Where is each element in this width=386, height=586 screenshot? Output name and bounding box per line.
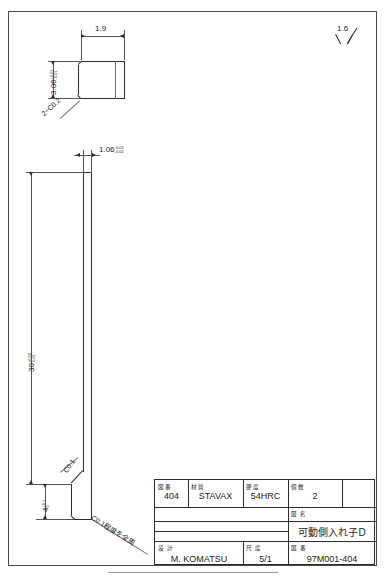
- surface-finish-value: 1.6: [337, 24, 348, 33]
- dim-tol-thickness: -0.01-0.02: [115, 146, 124, 154]
- arrowhead-thickness-left: [76, 153, 80, 157]
- dim-text-length-group: 30+0.02-0.01: [28, 353, 36, 372]
- tb-cell-design: 設 計 M. KOMATSU: [155, 541, 243, 566]
- dim-tol-foot: +0.10: [42, 500, 50, 508]
- dim-tol-end-view-height: +0.01-0.01: [50, 69, 58, 79]
- ext-line-thickness-left: [83, 150, 84, 174]
- front-view-right-edge: [91, 172, 92, 520]
- dim-text-foot-group: 4+0.10: [42, 500, 50, 512]
- arrowhead-width-right: [120, 34, 124, 38]
- ext-line-length-bottom: [26, 484, 72, 485]
- arrowhead-length-top: [29, 172, 33, 176]
- arrowhead-thickness-right: [92, 153, 96, 157]
- end-view-top-edge: [81, 61, 125, 62]
- tb-cell-material: 材質 STAVAX: [188, 480, 243, 507]
- dim-text-thickness: 1.06: [99, 145, 115, 154]
- dim-text-foot: 4: [41, 508, 50, 512]
- tb-value-design: M. KOMATSU: [155, 554, 243, 564]
- tb-value-material: STAVAX: [188, 491, 243, 501]
- arrowhead-length-bottom: [29, 480, 33, 484]
- tb-value-hardness: 54HRC: [243, 491, 288, 501]
- front-view-foot-left-edge: [71, 484, 72, 515]
- tb-value-drawing-no: 97M001-404: [288, 554, 376, 564]
- tb-label-scale: 尺 度: [246, 544, 261, 552]
- tb-cell-drawing-index: 図番 404: [155, 480, 188, 507]
- tb-value-scale: 5/1: [243, 554, 288, 564]
- end-view-right-edge: [124, 61, 125, 99]
- tb-label-quantity: 個数: [291, 483, 304, 491]
- drawing-sheet: 1.6 1.9 3.06+0.01-0.01 2−C0.2: [0, 0, 386, 586]
- arrowhead-foot-top: [43, 484, 47, 488]
- ext-line-length-top: [26, 172, 84, 173]
- tb-label-drawing-no: 図 番: [291, 544, 306, 552]
- dim-text-end-view-width: 1.9: [95, 25, 106, 33]
- end-view-inner-line: [115, 61, 116, 99]
- tb-cell-drawing-name: 図 名 可動側入れ子D: [288, 507, 376, 541]
- finish-stroke-tail: [347, 28, 357, 44]
- dim-text-length: 30: [27, 363, 36, 372]
- dim-tol-length: +0.02-0.01: [28, 353, 36, 363]
- tb-label-material: 材質: [191, 483, 204, 491]
- tb-cell-drawing-no: 図 番 97M001-404: [288, 541, 376, 566]
- caption-rule: [108, 572, 278, 573]
- tb-value-drawing-index: 404: [155, 491, 188, 501]
- tb-cell-blank: [342, 480, 376, 507]
- finish-stroke-left: [335, 34, 341, 44]
- arrowhead-foot-bottom: [43, 515, 47, 519]
- tb-label-drawing-index: 図番: [158, 483, 171, 491]
- arrowhead-height-top: [51, 61, 55, 65]
- front-view-left-edge-upper: [83, 172, 84, 472]
- tb-cell-quantity: 個数 2: [288, 480, 342, 507]
- dim-line-length: [31, 172, 32, 484]
- dim-text-end-view-height-group: 3.06+0.01-0.01: [50, 69, 58, 95]
- surface-finish-symbol: 1.6: [330, 22, 370, 56]
- ext-line-foot-bottom: [36, 519, 74, 520]
- tb-label-hardness: 硬度: [246, 483, 259, 491]
- dim-line-width: [81, 36, 124, 37]
- title-block: 図番 404 材質 STAVAX 硬度 54HRC 個数 2 図 名 可動側入れ…: [154, 479, 375, 565]
- dim-text-thickness-group: 1.06-0.01-0.02: [99, 146, 124, 154]
- tb-label-design: 設 計: [158, 544, 173, 552]
- ext-line-width-right: [124, 30, 125, 60]
- tb-value-quantity: 2: [288, 491, 342, 501]
- tb-cell-hardness: 硬度 54HRC: [243, 480, 288, 507]
- end-view-left-edge: [78, 65, 79, 95]
- tb-cell-scale: 尺 度 5/1: [243, 541, 288, 566]
- tb-label-drawing-name: 図 名: [291, 510, 306, 518]
- tb-hline-3: [155, 531, 288, 532]
- end-view-bottom-edge: [81, 98, 125, 99]
- tb-value-drawing-name: 可動側入れ子D: [288, 524, 376, 539]
- arrowhead-width-left: [81, 34, 85, 38]
- dim-text-end-view-height: 3.06: [49, 79, 58, 95]
